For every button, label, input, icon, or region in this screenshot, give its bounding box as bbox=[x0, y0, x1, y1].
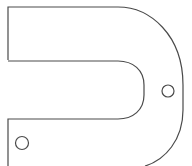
mounting-hole-left bbox=[16, 137, 29, 150]
bracket-outline bbox=[8, 7, 183, 166]
mounting-hole-right bbox=[162, 85, 174, 97]
bracket-diagram bbox=[0, 0, 192, 166]
